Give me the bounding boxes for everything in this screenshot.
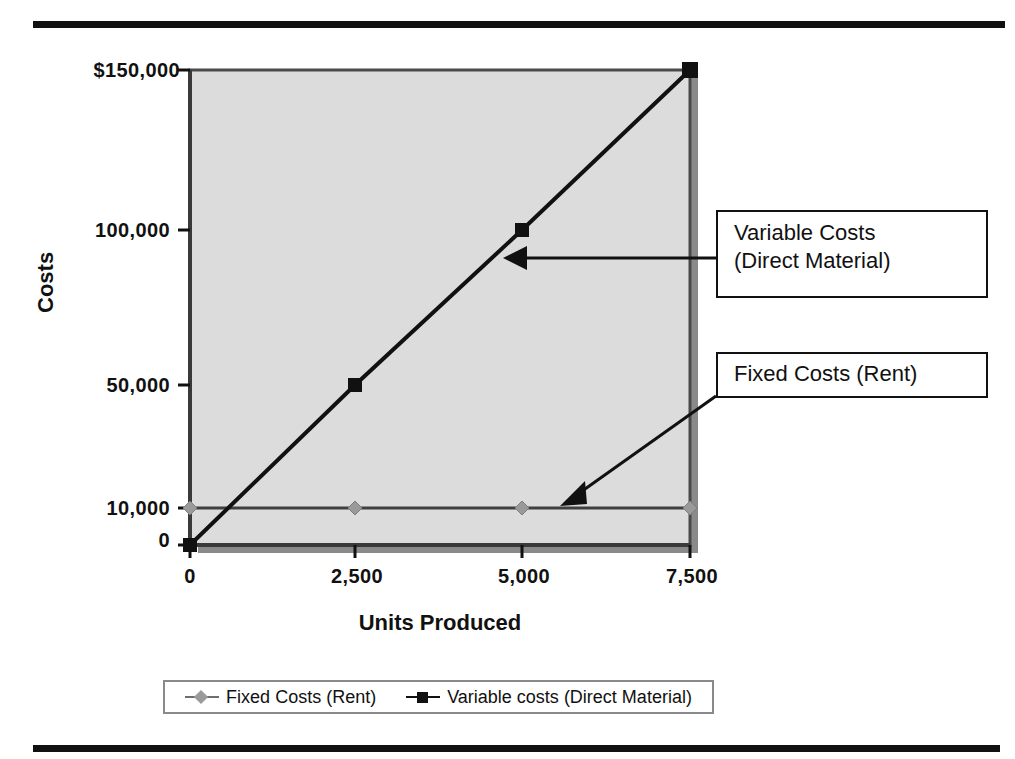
legend-label-variable-costs: Variable costs (Direct Material) xyxy=(447,687,692,708)
x-tick-label-7500: 7,500 xyxy=(666,565,718,588)
diamond-marker-icon xyxy=(185,690,219,704)
legend-item-variable-costs: Variable costs (Direct Material) xyxy=(406,687,692,708)
y-tick-label-50000: 50,000 xyxy=(10,374,170,397)
chart-legend: Fixed Costs (Rent) Variable costs (Direc… xyxy=(163,680,714,714)
y-tick-label-0: 0 xyxy=(10,529,170,552)
marker-variable-5000 xyxy=(515,223,529,237)
y-tick-label-10000: 10,000 xyxy=(10,497,170,520)
x-axis-title: Units Produced xyxy=(190,610,690,636)
x-tick-label-5000: 5,000 xyxy=(498,565,550,588)
x-tick-label-2500: 2,500 xyxy=(331,565,383,588)
marker-variable-2500 xyxy=(348,378,362,392)
legend-item-fixed-costs: Fixed Costs (Rent) xyxy=(185,687,376,708)
legend-label-fixed-costs: Fixed Costs (Rent) xyxy=(226,687,376,708)
x-tick-label-0: 0 xyxy=(184,565,196,588)
marker-variable-0 xyxy=(183,538,197,552)
callout-fixed-costs: Fixed Costs (Rent) xyxy=(716,352,988,398)
marker-variable-7500 xyxy=(682,62,698,78)
square-marker-icon xyxy=(406,690,440,704)
y-axis-title: Costs xyxy=(33,253,59,313)
callout-variable-costs: Variable Costs (Direct Material) xyxy=(716,210,988,298)
y-tick-label-150000: $150,000 xyxy=(10,59,180,82)
figure-container: $150,000 100,000 50,000 10,000 0 0 2,500… xyxy=(0,0,1015,759)
y-tick-label-100000: 100,000 xyxy=(10,219,170,242)
